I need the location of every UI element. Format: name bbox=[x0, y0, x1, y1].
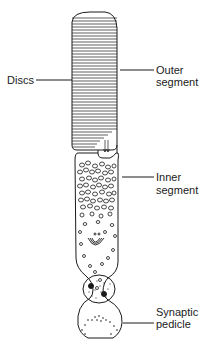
label-outer-segment-line2: segment bbox=[156, 76, 198, 88]
label-synaptic-pedicle-line2: pedicle bbox=[156, 318, 191, 330]
golgi-apparatus bbox=[88, 233, 104, 245]
disc-stack bbox=[72, 18, 117, 147]
synaptic-vesicles bbox=[81, 315, 118, 335]
label-synaptic-pedicle-line1: Synaptic bbox=[156, 306, 198, 318]
label-inner-segment-line2: segment bbox=[156, 184, 198, 196]
label-outer-segment-line1: Outer bbox=[156, 64, 184, 76]
nucleolus-1 bbox=[89, 284, 94, 289]
nucleolus-2 bbox=[102, 292, 107, 297]
label-inner-segment-line1: Inner bbox=[156, 171, 181, 183]
label-discs: Discs bbox=[7, 74, 34, 86]
mitochondria bbox=[78, 161, 117, 290]
